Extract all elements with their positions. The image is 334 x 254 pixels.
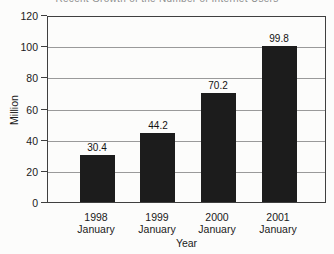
bar-value-label-70.2: 70.2	[196, 80, 240, 92]
bar-value-label-30.4: 30.4	[75, 142, 119, 154]
chart-title: Recent Growth of the Number of Internet …	[0, 0, 334, 4]
bar-value-label-44.2: 44.2	[136, 120, 180, 132]
x-axis-title: Year	[47, 237, 326, 249]
y-tick-label-80: 80	[0, 72, 38, 84]
bar-1998	[80, 155, 115, 202]
x-tick-label-2001: 2001 January	[242, 212, 314, 235]
bar-1999	[140, 133, 175, 202]
bar-2001	[262, 46, 297, 202]
y-tick-label-120: 120	[0, 10, 38, 22]
plot-area: 30.444.270.299.8	[47, 16, 326, 203]
bar-chart: Recent Growth of the Number of Internet …	[0, 0, 334, 254]
bar-2000	[201, 93, 236, 202]
bar-value-label-99.8: 99.8	[257, 33, 301, 45]
y-tick-label-100: 100	[0, 41, 38, 53]
y-tick-label-20: 20	[0, 166, 38, 178]
y-tick-label-40: 40	[0, 135, 38, 147]
y-tick-label-60: 60	[0, 104, 38, 116]
y-tick-label-0: 0	[0, 197, 38, 209]
